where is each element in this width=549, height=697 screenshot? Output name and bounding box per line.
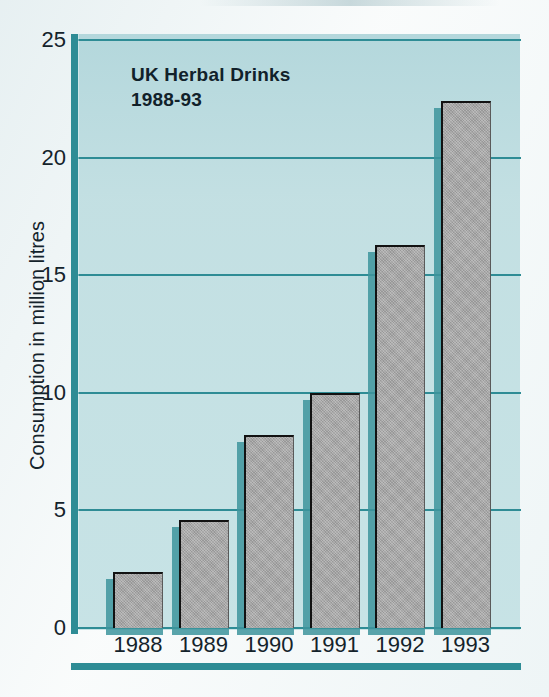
bar-1992[interactable] [375, 245, 425, 628]
chart-title-line1: UK Herbal Drinks [131, 62, 290, 87]
bar-1991[interactable] [310, 393, 360, 628]
bar-1988[interactable] [113, 572, 163, 628]
x-tick-label-1990: 1990 [237, 632, 301, 658]
bar-1993[interactable] [441, 101, 491, 628]
x-tick-label-1993: 1993 [434, 632, 498, 658]
x-tick-label-1988: 1988 [106, 632, 170, 658]
bar-1990[interactable] [244, 435, 294, 628]
x-tick-label-1991: 1991 [303, 632, 367, 658]
bar-chart-figure: 2520151050 Consumption in million litres… [0, 0, 549, 697]
x-tick-label-1989: 1989 [172, 632, 236, 658]
chart-title-line2: 1988-93 [131, 87, 290, 112]
bar-1989[interactable] [179, 520, 229, 628]
chart-title: UK Herbal Drinks 1988-93 [131, 62, 290, 112]
x-tick-label-1992: 1992 [368, 632, 432, 658]
